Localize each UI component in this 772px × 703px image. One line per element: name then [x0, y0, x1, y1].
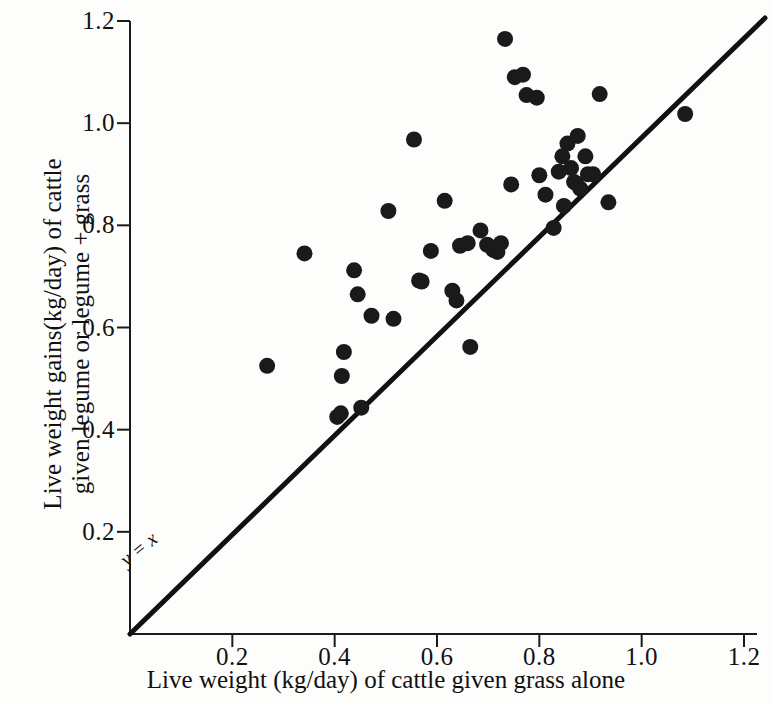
data-point [503, 176, 519, 192]
data-point [529, 90, 545, 106]
data-point [364, 308, 380, 324]
data-point [577, 148, 593, 164]
data-point [497, 31, 513, 47]
data-point [333, 405, 349, 421]
data-point [585, 166, 601, 182]
data-point [677, 106, 693, 122]
data-point [296, 245, 312, 261]
data-point [414, 274, 430, 290]
data-point-group [259, 31, 693, 425]
data-point [406, 132, 422, 148]
data-point [537, 187, 553, 203]
data-point [600, 194, 616, 210]
data-point [346, 262, 362, 278]
data-point [350, 286, 366, 302]
data-point [563, 160, 579, 176]
data-point [353, 400, 369, 416]
data-point [570, 128, 586, 144]
data-point [386, 311, 402, 327]
data-point [531, 167, 547, 183]
y-axis-title: Live weight gains(kg/day) of cattle give… [39, 74, 95, 594]
x-axis-title: Live weight (kg/day) of cattle given gra… [0, 666, 772, 694]
identity-line [130, 18, 765, 634]
y-axis-title-line-1: Live weight gains(kg/day) of cattle [39, 74, 67, 594]
data-point [546, 220, 562, 236]
data-point [493, 235, 509, 251]
y-axis-title-line-2: given legume or legume + grass [67, 74, 95, 594]
data-point [448, 292, 464, 308]
data-point [572, 181, 588, 197]
plot-canvas [0, 0, 772, 703]
data-point [460, 235, 476, 251]
data-point [472, 222, 488, 238]
data-point [380, 203, 396, 219]
data-point [462, 339, 478, 355]
data-point [259, 358, 275, 374]
y-tick-label: 1.2 [45, 7, 115, 35]
data-point [334, 368, 350, 384]
data-point [515, 67, 531, 83]
scatter-plot-figure: 0.20.40.60.81.01.2 0.20.40.60.81.01.2 y … [0, 0, 772, 703]
data-point [336, 344, 352, 360]
data-point [423, 243, 439, 259]
data-point [592, 86, 608, 102]
data-point [556, 198, 572, 214]
data-point [437, 193, 453, 209]
